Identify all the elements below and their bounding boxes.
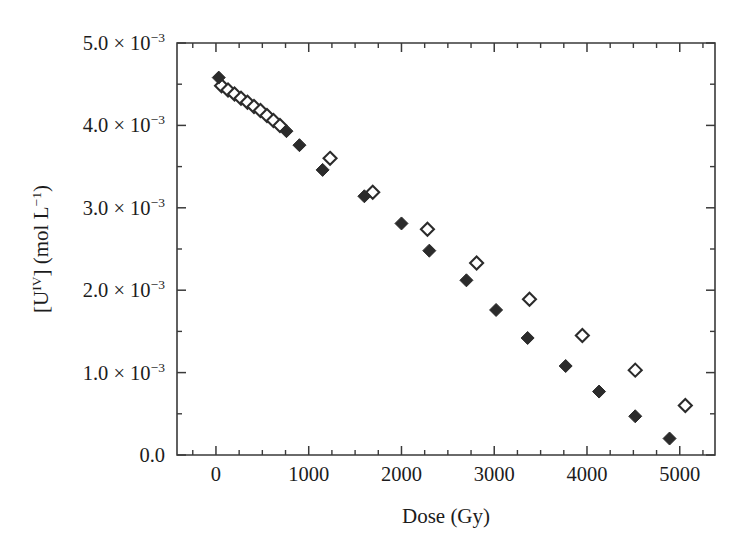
- y-label-mantissa: 1.0: [83, 362, 109, 384]
- y-title-tail: ): [29, 185, 53, 192]
- x-tick-label-0: 0: [211, 463, 221, 485]
- data-point-open-diamond: [523, 293, 536, 306]
- data-point-filled-diamond: [490, 303, 503, 316]
- x-tick-label-4000: 4000: [566, 463, 607, 485]
- data-point-filled-diamond: [423, 244, 436, 257]
- x-axis-title: Dose (Gy): [402, 504, 490, 528]
- x-axis-minor-ticks: [193, 43, 703, 455]
- data-point-open-diamond: [324, 152, 337, 165]
- y-axis-tick-labels: 0.01.0 × 10−32.0 × 10−33.0 × 10−34.0 × 1…: [83, 30, 166, 466]
- y-label-mantissa: 4.0: [83, 114, 109, 136]
- data-point-filled-diamond: [293, 139, 306, 152]
- y-tick-label-4: 4.0 × 10−3: [83, 112, 166, 136]
- data-point-filled-diamond: [593, 385, 606, 398]
- x-axis-major-ticks: [216, 43, 680, 455]
- y-title-bracket-close: ] (mol L: [29, 206, 53, 276]
- data-point-filled-diamond: [629, 410, 642, 423]
- y-tick-label-5: 5.0 × 10−3: [83, 30, 166, 54]
- x-tick-label-3000: 3000: [474, 463, 515, 485]
- y-label-exponent: −3: [151, 112, 166, 127]
- y-label-mantissa: 2.0: [83, 279, 109, 301]
- chart-figure: 010002000300040005000 0.01.0 × 10−32.0 ×…: [0, 0, 745, 542]
- y-label-mantissa: 5.0: [83, 32, 109, 54]
- y-label-exponent: −3: [151, 277, 166, 292]
- y-label-times: × 10: [108, 279, 150, 301]
- y-title-unit-superscript: −1: [29, 192, 44, 206]
- data-point-open-diamond: [629, 364, 642, 377]
- y-title-bracket-open: [U: [29, 291, 53, 313]
- y-label-exponent: −3: [151, 360, 166, 375]
- y-tick-label-3: 3.0 × 10−3: [83, 195, 166, 219]
- y-label-times: × 10: [108, 32, 150, 54]
- data-point-filled-diamond: [663, 432, 676, 445]
- data-point-filled-diamond: [316, 163, 329, 176]
- y-label-mantissa: 0.0: [139, 444, 165, 466]
- y-axis-title: [UIV] (mol L−1): [29, 185, 53, 313]
- y-label-exponent: −3: [151, 195, 166, 210]
- data-point-open-diamond: [421, 223, 434, 236]
- y-title-element-superscript: IV: [29, 276, 44, 290]
- y-tick-label-0: 0.0: [139, 444, 165, 466]
- y-label-times: × 10: [108, 197, 150, 219]
- data-point-filled-diamond: [559, 360, 572, 373]
- x-tick-label-1000: 1000: [288, 463, 329, 485]
- scatter-plot: 010002000300040005000 0.01.0 × 10−32.0 ×…: [0, 0, 745, 542]
- data-point-open-diamond: [576, 329, 589, 342]
- y-tick-label-1: 1.0 × 10−3: [83, 360, 166, 384]
- data-point-filled-diamond: [521, 331, 534, 344]
- y-label-times: × 10: [108, 114, 150, 136]
- data-point-filled-diamond: [460, 274, 473, 287]
- y-label-mantissa: 3.0: [83, 197, 109, 219]
- x-tick-label-5000: 5000: [659, 463, 700, 485]
- data-point-open-diamond: [470, 257, 483, 270]
- y-label-times: × 10: [108, 362, 150, 384]
- x-tick-label-2000: 2000: [381, 463, 422, 485]
- y-tick-label-2: 2.0 × 10−3: [83, 277, 166, 301]
- data-point-filled-diamond: [395, 217, 408, 230]
- data-point-open-diamond: [679, 399, 692, 412]
- y-label-exponent: −3: [151, 30, 166, 45]
- x-axis-tick-labels: 010002000300040005000: [211, 463, 700, 485]
